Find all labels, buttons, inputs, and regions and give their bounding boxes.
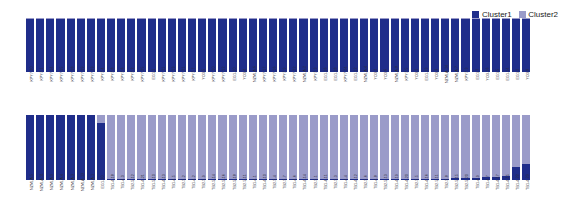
bar-segment-cluster2 [168, 115, 176, 179]
bar [471, 115, 481, 180]
x-axis-tick-label: TB1-4-23 [526, 174, 530, 190]
x-axis-tick-label: KPY7-6 [121, 68, 125, 81]
x-axis-tick: EG1-5 [491, 73, 501, 113]
bar [217, 115, 227, 180]
x-axis-tick: KPY7-14 [45, 73, 55, 113]
x-axis-tick: KPY7-25 [136, 73, 146, 113]
bar [450, 18, 460, 72]
x-axis-tick: NZMLA-6 [248, 73, 258, 113]
x-axis-tick-label: YO3-16 [486, 68, 490, 81]
bar-segment-cluster1 [350, 19, 358, 72]
x-axis-tick: TB1-4-5 [167, 181, 177, 214]
x-axis-tick: NZMLA-9 [45, 181, 55, 214]
bar-segment-cluster1 [117, 19, 125, 72]
bar-segment-cluster2 [330, 115, 338, 179]
x-axis-tick: KPY7-22 [288, 73, 298, 113]
bar-segment-cluster1 [391, 19, 399, 72]
bar-segment-cluster1 [461, 19, 469, 72]
bar-segment-cluster2 [279, 115, 287, 179]
bar-segment-cluster1 [370, 19, 378, 72]
x-axis-tick: TB1-4-20 [400, 181, 410, 214]
bar [136, 115, 146, 180]
x-axis-tick: TB2-5-9 [197, 181, 207, 214]
bar-segment-cluster1 [87, 19, 95, 72]
bar-segment-cluster1 [380, 19, 388, 72]
bar [197, 115, 207, 180]
x-axis-tick-label: TB2-5-14 [212, 174, 216, 190]
bar [258, 115, 268, 180]
bar [106, 18, 116, 72]
bar-segment-cluster2 [380, 115, 388, 179]
x-axis-tick: EG1-12 [349, 73, 359, 113]
x-axis-tick-label: TB2-5-8 [445, 175, 449, 189]
structure-plot-root: Cluster1 Cluster2 KPY7-20KPY7-1KPY7-14KP… [0, 0, 566, 214]
x-axis-tick-label: KPY7-14 [50, 66, 54, 81]
bar-segment-cluster1 [421, 19, 429, 72]
bar-segment-cluster2 [391, 115, 399, 179]
bar [460, 115, 470, 180]
x-axis-tick-label: EG1-10 [233, 68, 237, 81]
x-axis-tick: NZMLA-2 [298, 73, 308, 113]
bar-segment-cluster1 [208, 19, 216, 72]
bar [278, 115, 288, 180]
bar [55, 18, 65, 72]
x-axis-tick-label: KPY7-23 [91, 66, 95, 81]
bar [35, 18, 45, 72]
bar [379, 115, 389, 180]
x-axis-tick: YO3-6 [379, 73, 389, 113]
x-axis-tick: KPY7-15 [55, 73, 65, 113]
bar [278, 18, 288, 72]
x-axis-tick: TB2-5-5 [410, 181, 420, 214]
bar [440, 18, 450, 72]
x-axis-tick: KPY7-1 [35, 73, 45, 113]
bar-segment-cluster1 [56, 19, 64, 72]
x-axis-tick: TB2-5-11 [430, 181, 440, 214]
bar-segment-cluster1 [26, 19, 34, 72]
x-axis-tick-label: EG1-13 [425, 68, 429, 81]
x-axis-tick-label: TB1-4-8 [374, 175, 378, 189]
bar-segment-cluster2 [492, 115, 500, 177]
x-axis-tick-label: TB1-4-18 [111, 174, 115, 190]
x-axis-tick-label: TB2-5-9 [202, 175, 206, 189]
bar-segment-cluster1 [502, 19, 510, 72]
bar-segment-cluster2 [370, 115, 378, 179]
x-axis-tick: EG1-1 [147, 73, 157, 113]
bar-segment-cluster1 [512, 19, 520, 72]
x-axis-tick-label: YO3-2 [374, 69, 378, 80]
bar-segment-cluster2 [299, 115, 307, 179]
x-axis-tick-label: TB1-4-16 [425, 174, 429, 190]
bar-segment-cluster2 [522, 115, 530, 164]
bar-segment-cluster1 [67, 115, 75, 180]
x-axis-tick-label: TB2-5-7 [283, 175, 287, 189]
top-panel-tick-labels: KPY7-20KPY7-1KPY7-14KPY7-15KPY7-18KPY7-1… [25, 73, 531, 113]
bar [187, 115, 197, 180]
bar [400, 18, 410, 72]
x-axis-tick-label: NZMLA-14 [445, 65, 449, 83]
x-axis-tick: YO3-4 [238, 73, 248, 113]
x-axis-tick-label: TB2-5-6 [364, 175, 368, 189]
bar [207, 18, 217, 72]
bar [349, 18, 359, 72]
bar-segment-cluster1 [46, 115, 54, 180]
bar-segment-cluster1 [269, 19, 277, 72]
x-axis-tick: YO3-1 [410, 73, 420, 113]
x-axis-tick: NZMLA-8 [390, 73, 400, 113]
bar-segment-cluster1 [330, 19, 338, 72]
x-axis-tick: KPY7-20 [25, 73, 35, 113]
bar [440, 115, 450, 180]
bar-segment-cluster2 [401, 115, 409, 179]
bar [329, 115, 339, 180]
x-axis-tick-label: YO3-5 [202, 69, 206, 80]
x-axis-tick-label: KPY7-18 [71, 66, 75, 81]
x-axis-tick: KPY7-19 [76, 73, 86, 113]
x-axis-tick-label: NZMLA-5 [30, 174, 34, 190]
x-axis-tick: KPY7-6 [116, 73, 126, 113]
bar [167, 115, 177, 180]
bar [116, 18, 126, 72]
bar-segment-cluster1 [340, 19, 348, 72]
bar [390, 115, 400, 180]
bar [379, 18, 389, 72]
x-axis-tick: TB2-5-2 [177, 181, 187, 214]
top-panel-bars [25, 18, 531, 72]
x-axis-tick: EG1-10 [96, 181, 106, 214]
